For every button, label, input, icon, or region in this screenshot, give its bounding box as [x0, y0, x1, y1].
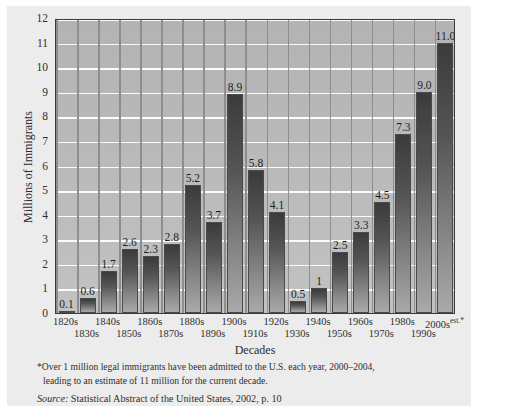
- footnote: *Over 1 million legal immigrants have be…: [37, 360, 447, 387]
- bar-separator: [224, 20, 226, 313]
- bar-separator: [119, 20, 121, 313]
- bar-separator: [393, 20, 395, 313]
- bar-separator: [56, 20, 58, 313]
- bar-slot: [309, 20, 330, 313]
- plot-wrap: 0.10.61.72.62.32.85.23.78.95.84.10.512.5…: [55, 19, 455, 314]
- bar-slot: [372, 20, 393, 313]
- bar-separator: [309, 20, 311, 313]
- y-axis-title: Millions of Immigrants: [21, 77, 36, 257]
- bar-slot: [56, 20, 77, 313]
- y-axis: Millions of Immigrants 0123456789101112: [7, 19, 53, 314]
- source-label: Source:: [37, 393, 68, 404]
- bar-separator: [351, 20, 353, 313]
- y-axis-tick-10: 10: [37, 62, 49, 74]
- bar-separator: [182, 20, 184, 313]
- bar[interactable]: [290, 301, 306, 313]
- bar-value-label: 11.0: [422, 31, 455, 43]
- bar[interactable]: [437, 43, 453, 313]
- bar[interactable]: [59, 311, 75, 313]
- bar[interactable]: [248, 170, 264, 313]
- y-axis-tick-6: 6: [42, 161, 48, 173]
- y-axis-tick-11: 11: [37, 38, 48, 50]
- bar-slot: [161, 20, 182, 313]
- y-axis-tick-4: 4: [42, 210, 48, 222]
- x-axis-tick-2000s: 2000sest.*: [421, 317, 467, 330]
- footnote-line-1: *Over 1 million legal immigrants have be…: [37, 361, 375, 372]
- source-line: Source: Statistical Abstract of the Unit…: [37, 393, 457, 404]
- bar[interactable]: [122, 249, 138, 313]
- y-axis-tick-8: 8: [42, 112, 48, 124]
- bar-slot: [182, 20, 203, 313]
- bar[interactable]: [353, 232, 369, 313]
- bar[interactable]: [227, 94, 243, 313]
- x-axis-tick-1880s: 1880s: [169, 317, 215, 328]
- x-axis: 1820s1830s1840s1850s1860s1870s1880s1890s…: [55, 316, 455, 344]
- source-text: Statistical Abstract of the United State…: [68, 393, 281, 404]
- x-axis-tick-1830s: 1830s: [64, 329, 110, 340]
- bar[interactable]: [185, 185, 201, 313]
- bar-slot: [203, 20, 224, 313]
- x-axis-tick-1820s: 1820s: [43, 317, 89, 328]
- bar[interactable]: [80, 298, 96, 313]
- bar-slot: [288, 20, 309, 313]
- x-axis-tick-1920s: 1920s: [253, 317, 299, 328]
- x-axis-tick-1950s: 1950s: [316, 329, 362, 340]
- y-axis-tick-7: 7: [42, 136, 48, 148]
- bar-separator: [140, 20, 142, 313]
- bar-slot: [393, 20, 414, 313]
- footnote-line-2: leading to an estimate of 11 million for…: [37, 374, 447, 388]
- y-axis-tick-2: 2: [42, 259, 48, 271]
- x-axis-tick-1850s: 1850s: [106, 329, 152, 340]
- bar[interactable]: [332, 252, 348, 313]
- x-axis-title: Decades: [55, 343, 455, 358]
- x-axis-tick-1900s: 1900s: [211, 317, 257, 328]
- x-axis-tick-1940s: 1940s: [295, 317, 341, 328]
- y-axis-tick-5: 5: [42, 185, 48, 197]
- bar[interactable]: [311, 288, 327, 313]
- x-axis-tick-1990s: 1990s: [400, 329, 446, 340]
- bar-slot: [119, 20, 140, 313]
- x-axis-tick-1840s: 1840s: [85, 317, 131, 328]
- bar[interactable]: [206, 222, 222, 313]
- x-axis-tick-1870s: 1870s: [148, 329, 194, 340]
- bar-separator: [330, 20, 332, 313]
- bar-separator: [288, 20, 290, 313]
- bar-separator: [267, 20, 269, 313]
- x-axis-tick-1860s: 1860s: [127, 317, 173, 328]
- plot-area: 0.10.61.72.62.32.85.23.78.95.84.10.512.5…: [55, 19, 455, 314]
- bar-separator: [203, 20, 205, 313]
- y-axis-tick-9: 9: [42, 87, 48, 99]
- bar-separator: [77, 20, 79, 313]
- x-axis-tick-1930s: 1930s: [274, 329, 320, 340]
- bar[interactable]: [416, 92, 432, 313]
- bar-slot: [414, 20, 435, 313]
- bar[interactable]: [164, 244, 180, 313]
- bar-slot: [267, 20, 288, 313]
- bar-slot: [435, 20, 455, 313]
- x-axis-tick-1960s: 1960s: [337, 317, 383, 328]
- y-axis-tick-3: 3: [42, 235, 48, 247]
- bar[interactable]: [374, 202, 390, 313]
- y-axis-tick-1: 1: [42, 284, 48, 296]
- x-axis-tick-1890s: 1890s: [190, 329, 236, 340]
- bar-slot: [140, 20, 161, 313]
- bar-separator: [414, 20, 416, 313]
- x-axis-tick-1910s: 1910s: [232, 329, 278, 340]
- bar-separator: [435, 20, 437, 313]
- bar-slot: [330, 20, 351, 313]
- bar-separator: [161, 20, 163, 313]
- y-axis-tick-12: 12: [37, 13, 49, 25]
- bar[interactable]: [101, 271, 117, 313]
- x-axis-tick-1970s: 1970s: [358, 329, 404, 340]
- bar[interactable]: [395, 134, 411, 313]
- x-axis-tick-1980s: 1980s: [379, 317, 425, 328]
- x-axis-tick-estimate-note: est.*: [450, 316, 464, 325]
- x-axis-tick-label: 2000s: [425, 319, 450, 330]
- figure-card: Millions of Immigrants 0123456789101112 …: [7, 6, 470, 405]
- bar-separator: [372, 20, 374, 313]
- bar[interactable]: [143, 256, 159, 313]
- bar-slot: [351, 20, 372, 313]
